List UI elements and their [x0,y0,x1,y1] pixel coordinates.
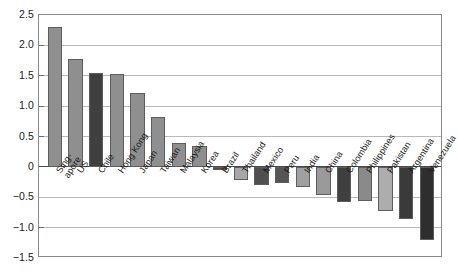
y-axis-tick-label: 0 [0,160,34,172]
plot-area: Sing- aporeUSChileHong KongJapanTaiwanMa… [38,14,442,257]
bar [110,74,124,167]
bar [399,167,413,219]
y-axis-tick [39,45,44,46]
y-axis-tick-label: −0.5 [0,190,34,202]
y-axis-tick-label: 2.5 [0,8,34,20]
gridline [39,227,441,228]
bar [420,167,434,240]
y-axis-tick-label: −1.0 [0,221,34,233]
y-axis-tick-label: 1.0 [0,99,34,111]
y-axis-tick-label: −1.5 [0,251,34,263]
y-axis-tick-label: 2.0 [0,38,34,50]
bar [89,73,103,167]
gridline [39,45,441,46]
y-axis-tick [39,75,44,76]
y-axis-tick-label: 1.5 [0,69,34,81]
y-axis-tick [39,106,44,107]
y-axis-tick-label: 0.5 [0,130,34,142]
bar [68,59,82,167]
y-axis-tick [39,136,44,137]
y-axis-tick [39,227,44,228]
bar [48,27,62,167]
